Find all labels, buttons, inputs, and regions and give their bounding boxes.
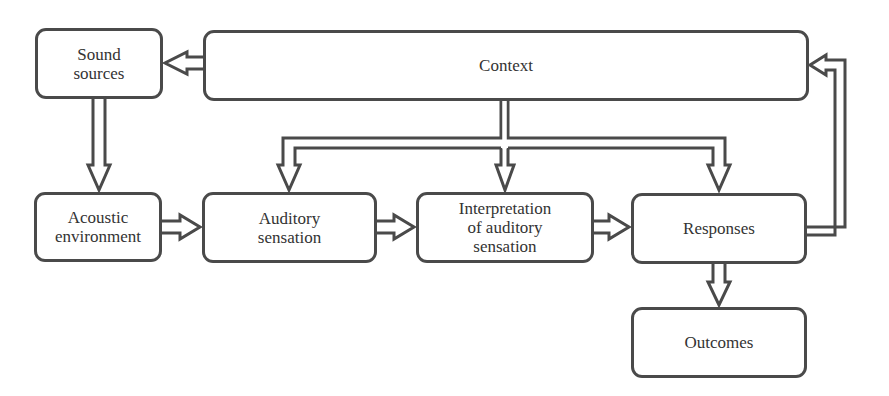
arrow-sound-to-acoustic — [88, 98, 110, 190]
arrow-context-to-responses — [508, 100, 730, 190]
node-label-line: Acoustic — [55, 208, 141, 227]
arrow-interpretation-to-responses — [593, 215, 629, 239]
node-outcomes: Outcomes — [631, 307, 807, 378]
arrow-context-to-auditory — [278, 100, 501, 190]
node-interpretation: Interpretationof auditorysensation — [416, 192, 594, 263]
node-label-line: Context — [479, 56, 533, 75]
node-auditory-sensation: Auditorysensation — [202, 192, 377, 263]
node-label-line: sensation — [459, 237, 552, 256]
node-label-line: Auditory — [258, 209, 321, 228]
node-label-line: environment — [55, 227, 141, 246]
node-sound-sources: Soundsources — [35, 28, 163, 99]
node-label-line: sensation — [258, 228, 321, 247]
node-label-line: Outcomes — [685, 333, 754, 352]
node-context: Context — [203, 30, 809, 101]
node-acoustic-environment: Acousticenvironment — [34, 192, 162, 262]
node-label-line: Interpretation — [459, 199, 552, 218]
node-label-line: of auditory — [459, 218, 552, 237]
node-label-line: Responses — [683, 219, 755, 238]
node-label-line: Sound — [74, 45, 125, 64]
arrow-context-to-sound-sources — [165, 52, 203, 74]
arrow-context-to-interpretation — [496, 148, 514, 190]
arrow-responses-to-context — [806, 55, 845, 235]
arrow-acoustic-to-auditory — [161, 215, 200, 239]
node-label-line: sources — [74, 64, 125, 83]
arrow-auditory-to-interpretation — [376, 215, 414, 239]
node-responses: Responses — [631, 193, 807, 264]
arrow-responses-to-outcomes — [708, 263, 730, 305]
